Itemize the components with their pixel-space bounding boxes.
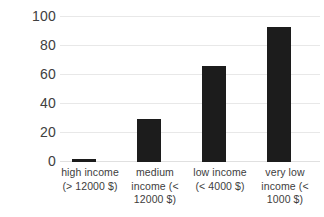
x-label-very-low-income-line-2: income (< (249, 180, 321, 194)
x-label-medium-income-line-2: income (< (119, 180, 191, 194)
bar-high-income (72, 159, 96, 162)
x-label-medium-income-line-1: medium (119, 166, 191, 180)
bars-layer (60, 16, 320, 162)
x-label-high-income: high income (> 12000 $) (54, 166, 126, 193)
bar-low-income (202, 66, 226, 162)
y-tick-label-0: 0 (4, 154, 56, 168)
x-label-low-income-line-1: low income (184, 166, 256, 180)
x-label-very-low-income-line-3: 1000 $) (249, 193, 321, 207)
x-label-medium-income-line-3: 12000 $) (119, 193, 191, 207)
y-tick-label-20: 20 (4, 125, 56, 139)
x-label-very-low-income-line-1: very low (249, 166, 321, 180)
y-tick-label-40: 40 (4, 96, 56, 110)
y-axis: 100 80 60 40 20 0 (0, 0, 56, 217)
bar-slot-medium-income (137, 16, 161, 162)
bar-chart: 100 80 60 40 20 0 high income (> 12000 $… (0, 0, 324, 217)
bar-slot-very-low-income (267, 16, 291, 162)
x-label-high-income-line-1: high income (54, 166, 126, 180)
x-label-low-income: low income (< 4000 $) (184, 166, 256, 193)
y-tick-label-100: 100 (4, 9, 56, 23)
x-label-very-low-income: very low income (< 1000 $) (249, 166, 321, 207)
bar-slot-high-income (72, 16, 96, 162)
bar-medium-income (137, 119, 161, 163)
x-label-medium-income: medium income (< 12000 $) (119, 166, 191, 207)
bar-slot-low-income (202, 16, 226, 162)
y-tick-label-60: 60 (4, 67, 56, 81)
x-axis-labels: high income (> 12000 $) medium income (<… (60, 166, 320, 217)
x-label-low-income-line-2: (< 4000 $) (184, 180, 256, 194)
bar-very-low-income (267, 27, 291, 162)
y-tick-label-80: 80 (4, 38, 56, 52)
x-label-high-income-line-2: (> 12000 $) (54, 180, 126, 194)
